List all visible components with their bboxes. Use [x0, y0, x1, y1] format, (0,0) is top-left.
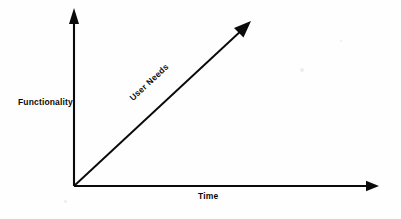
chart-graphic: [0, 0, 401, 219]
y-axis-arrowhead-icon: [69, 8, 79, 24]
user-needs-trend-line: [74, 29, 243, 186]
x-axis-label: Time: [198, 192, 218, 201]
y-axis-label: Functionality: [18, 98, 73, 107]
figure-canvas: Functionality Time User Needs: [0, 0, 401, 219]
x-axis-arrowhead-icon: [366, 181, 379, 191]
